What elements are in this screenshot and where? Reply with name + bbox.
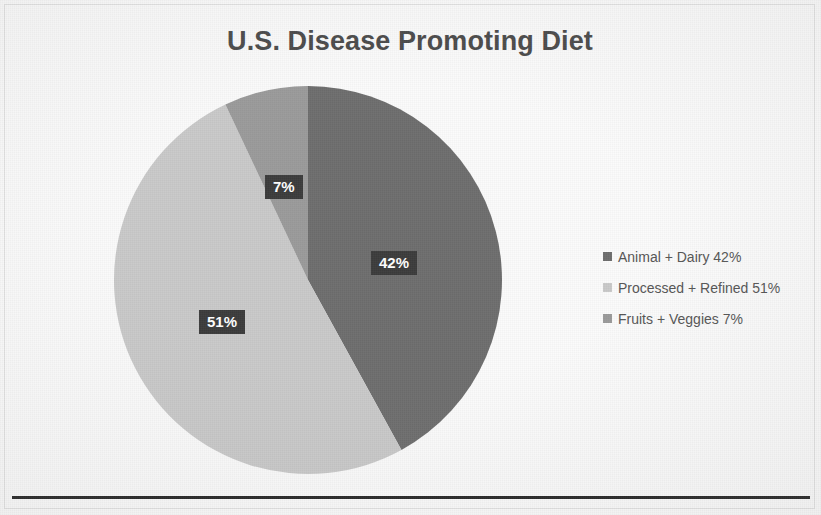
legend-item-label: Animal + Dairy 42% — [618, 249, 741, 265]
page-title: U.S. Disease Promoting Diet — [70, 26, 750, 57]
chart-legend: Animal + Dairy 42% Processed + Refined 5… — [603, 241, 780, 334]
legend-item-label: Processed + Refined 51% — [618, 280, 780, 296]
bottom-divider — [12, 496, 810, 499]
legend-item-animal-dairy[interactable]: Animal + Dairy 42% — [603, 241, 780, 272]
legend-item-fruits-veggies[interactable]: Fruits + Veggies 7% — [603, 303, 780, 334]
pie-chart-svg — [113, 85, 503, 475]
legend-item-label: Fruits + Veggies 7% — [618, 311, 743, 327]
data-label-fruits-veggies: 7% — [265, 175, 303, 199]
data-label-processed-refined: 51% — [199, 310, 245, 334]
legend-swatch-icon — [603, 314, 612, 323]
data-label-animal-dairy: 42% — [371, 251, 417, 275]
legend-swatch-icon — [603, 283, 612, 292]
pie-slices — [114, 86, 502, 474]
legend-item-processed-refined[interactable]: Processed + Refined 51% — [603, 272, 780, 303]
pie-chart — [113, 85, 503, 475]
legend-swatch-icon — [603, 252, 612, 261]
chart-page: U.S. Disease Promoting Diet 42% 51% 7% A… — [0, 0, 821, 515]
